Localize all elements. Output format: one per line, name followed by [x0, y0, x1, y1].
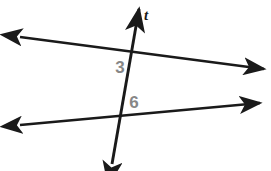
- upper-parallel-line: [20, 37, 264, 69]
- geometry-diagram: t 3 6: [0, 0, 271, 171]
- angle-label-3: 3: [115, 58, 124, 77]
- transversal-label-t: t: [144, 7, 149, 23]
- geometry-canvas: t 3 6: [0, 0, 271, 171]
- lower-parallel-line: [20, 103, 260, 125]
- transversal-line: [112, 9, 139, 164]
- angle-label-6: 6: [129, 93, 138, 112]
